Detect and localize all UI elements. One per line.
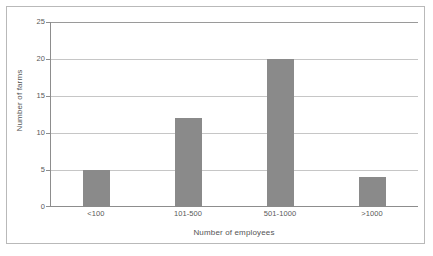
bar-category-3[interactable] (359, 177, 386, 207)
y-tick-label: 25 (36, 18, 45, 26)
y-tick-label: 15 (36, 92, 45, 100)
x-tick-label-3: >1000 (326, 210, 418, 218)
bar-category-1[interactable] (175, 118, 202, 207)
x-tick-label-2: 501-1000 (234, 210, 326, 218)
bar-category-2[interactable] (267, 59, 294, 207)
bars-layer (50, 22, 418, 207)
x-tick-label-0: <100 (50, 210, 142, 218)
y-tick-label: 0 (41, 203, 45, 211)
y-axis-tick-labels: 25 20 15 10 5 0 (26, 22, 45, 207)
y-tick-label: 20 (36, 55, 45, 63)
y-tick-label: 10 (36, 129, 45, 137)
bar-category-0[interactable] (83, 170, 110, 207)
y-axis-title: Number of farms (15, 36, 24, 166)
x-tick-label-1: 101-500 (142, 210, 234, 218)
x-axis-title: Number of employees (50, 228, 418, 237)
x-axis-tick-labels: <100 101-500 501-1000 >1000 (50, 210, 418, 224)
chart-figure: 25 20 15 10 5 0 <100 101-500 501-1000 >1… (0, 0, 433, 256)
y-tick-label: 5 (41, 166, 45, 174)
